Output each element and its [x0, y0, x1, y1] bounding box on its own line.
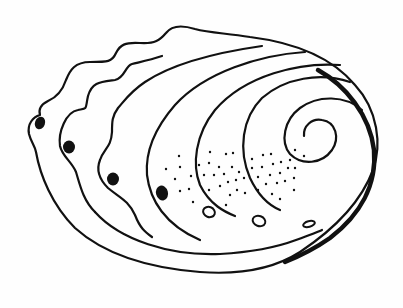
- respiratory-hole-3: [107, 173, 119, 186]
- respiratory-hole-2: [63, 141, 75, 154]
- growth-line-5: [196, 65, 340, 216]
- closed-hole-2: [251, 214, 267, 228]
- shell-spiral: [285, 98, 362, 161]
- closed-hole-3: [302, 220, 315, 229]
- closed-hole-1: [202, 205, 217, 219]
- stipple-texture: [165, 149, 305, 206]
- respiratory-hole-4: [154, 184, 169, 202]
- shell-outer-outline: [29, 26, 378, 272]
- illustration-canvas: Abalone shell line drawing: [0, 0, 403, 308]
- growth-line-6: [243, 77, 350, 210]
- abalone-shell-drawing: [0, 0, 403, 308]
- shell-inner-rim: [95, 212, 322, 254]
